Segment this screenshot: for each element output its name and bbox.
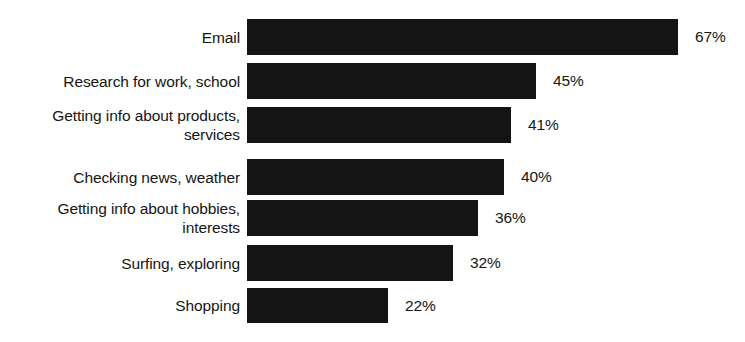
bar-research-for-work-school (247, 63, 536, 99)
bar-row-research-for-work-school: Research for work, school45% (0, 63, 745, 99)
bar-value-label: 45% (553, 72, 584, 90)
bar-row-email: Email67% (0, 18, 745, 56)
category-label: Getting info about products, services (0, 106, 240, 144)
category-label: Checking news, weather (0, 168, 240, 187)
bar-value-label: 22% (405, 297, 436, 315)
bar-value-label: 40% (521, 168, 552, 186)
bar-area: 67% (240, 18, 745, 56)
bar-row-shopping: Shopping22% (0, 288, 745, 323)
bar-row-checking-news-weather: Checking news, weather40% (0, 159, 745, 195)
bar-area: 40% (240, 159, 745, 195)
bar-checking-news-weather (247, 159, 504, 195)
bar-value-label: 32% (470, 254, 501, 272)
category-label: Getting info about hobbies, interests (0, 199, 240, 237)
bar-area: 41% (240, 107, 745, 143)
bar-email (247, 19, 678, 55)
bar-row-getting-info-about-hobbies-interests: Getting info about hobbies, interests36% (0, 200, 745, 236)
bar-chart: Email67%Research for work, school45%Gett… (0, 0, 745, 342)
bar-value-label: 36% (495, 209, 526, 227)
bar-area: 22% (240, 288, 745, 323)
category-label: Shopping (0, 296, 240, 315)
bar-area: 45% (240, 63, 745, 99)
bar-shopping (247, 288, 388, 323)
bar-surfing-exploring (247, 245, 453, 281)
bar-getting-info-about-products-services (247, 107, 511, 143)
bar-area: 36% (240, 200, 745, 236)
bar-value-label: 67% (695, 28, 726, 46)
bar-value-label: 41% (528, 116, 559, 134)
category-label: Email (0, 28, 240, 47)
category-label: Research for work, school (0, 72, 240, 91)
bar-row-getting-info-about-products-services: Getting info about products, services41% (0, 107, 745, 143)
bar-row-surfing-exploring: Surfing, exploring32% (0, 245, 745, 281)
bar-area: 32% (240, 245, 745, 281)
chart-rows: Email67%Research for work, school45%Gett… (0, 0, 745, 342)
category-label: Surfing, exploring (0, 254, 240, 273)
bar-getting-info-about-hobbies-interests (247, 200, 478, 236)
